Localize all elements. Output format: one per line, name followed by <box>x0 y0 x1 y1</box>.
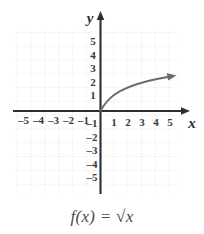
x-tick-label: 1 <box>111 116 117 128</box>
y-tick-label: –4 <box>86 158 99 170</box>
y-tick-label: 2 <box>90 76 96 88</box>
x-tick-label: 4 <box>153 116 159 128</box>
x-axis-label: x <box>187 115 196 131</box>
x-tick-label: 5 <box>167 116 173 128</box>
y-tick-label: 4 <box>90 49 96 61</box>
coordinate-plane: –5 –4 –3 –2 –1 1 2 3 4 5 5 4 3 2 1 –1 –2… <box>0 0 204 204</box>
caption-function-text: f(x) = <box>70 207 111 227</box>
x-tick-label: –5 <box>17 114 30 126</box>
x-tick-label: –4 <box>32 114 45 126</box>
caption-radical-text: √x <box>116 207 133 227</box>
y-tick-label: 5 <box>90 35 96 47</box>
x-tick-label: –2 <box>62 114 75 126</box>
y-tick-label: –1 <box>86 117 98 129</box>
y-axis-label: y <box>85 10 94 26</box>
x-tick-label: 2 <box>125 116 131 128</box>
x-tick-label: –3 <box>47 114 60 126</box>
function-caption: f(x) = √x <box>0 200 204 234</box>
y-tick-label: –2 <box>86 131 99 143</box>
y-tick-label: 1 <box>90 89 96 101</box>
y-tick-label: –3 <box>86 144 99 156</box>
y-tick-label: 3 <box>90 62 96 74</box>
y-tick-label: –5 <box>86 171 99 183</box>
x-tick-label: 3 <box>139 116 145 128</box>
graph-figure: –5 –4 –3 –2 –1 1 2 3 4 5 5 4 3 2 1 –1 –2… <box>0 0 204 234</box>
